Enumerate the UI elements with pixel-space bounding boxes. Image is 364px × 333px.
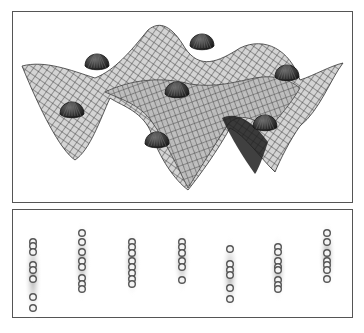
ring-particle (179, 264, 186, 271)
ring-particle (30, 249, 37, 256)
dome-particle (85, 54, 109, 70)
ring-particle (30, 276, 37, 283)
ring-particle (324, 250, 331, 257)
ring-particle (79, 264, 86, 271)
ring-particle (324, 276, 331, 283)
ring-particle (30, 294, 37, 301)
dome-particle (190, 34, 214, 50)
ring-particle (30, 267, 37, 274)
ring-particle (79, 249, 86, 256)
figure-canvas (0, 0, 364, 333)
ring-particle (275, 267, 282, 274)
ring-chains (24, 219, 336, 322)
ring-chain (123, 228, 141, 298)
ring-chain (173, 228, 191, 294)
ring-chain (221, 235, 239, 313)
ring-particle (79, 286, 86, 293)
ring-particle (79, 239, 86, 246)
ring-particle (179, 277, 186, 284)
ring-chain (73, 219, 91, 303)
ring-particle (227, 296, 234, 303)
ring-particle (227, 246, 234, 253)
ring-chain (24, 228, 42, 322)
ring-particle (179, 250, 186, 257)
ring-particle (275, 249, 282, 256)
ring-particle (324, 239, 331, 246)
ring-particle (324, 230, 331, 237)
ring-particle (324, 267, 331, 274)
ring-particle (30, 305, 37, 312)
ring-particle (227, 272, 234, 279)
ring-particle (227, 285, 234, 292)
ring-particle (79, 230, 86, 237)
ring-chain (269, 233, 287, 303)
ring-particle (129, 250, 136, 257)
ring-particle (129, 281, 136, 288)
ring-particle (275, 286, 282, 293)
ring-chain (318, 219, 336, 293)
